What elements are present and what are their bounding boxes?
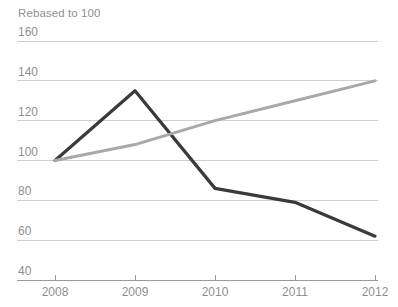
y-axis-label-120: 120 — [18, 106, 38, 118]
x-axis-label-2009: 2009 — [105, 286, 165, 298]
x-axis-label-2012: 2012 — [345, 286, 398, 298]
y-axis-label-100: 100 — [18, 146, 38, 158]
y-axis-label-60: 60 — [18, 225, 31, 237]
y-axis-label-140: 140 — [18, 66, 38, 78]
x-axis-label-2008: 2008 — [25, 286, 85, 298]
x-axis-label-2011: 2011 — [265, 286, 325, 298]
y-axis-label-40: 40 — [18, 265, 31, 277]
series-line-dark-series — [55, 91, 375, 236]
chart-svg — [0, 0, 398, 307]
y-axis-label-80: 80 — [18, 185, 31, 197]
plot-area — [0, 0, 398, 307]
x-axis-label-2010: 2010 — [185, 286, 245, 298]
y-axis-label-160: 160 — [18, 26, 38, 38]
chart-container: Rebased to 100 1601401201008060402008200… — [0, 0, 398, 307]
